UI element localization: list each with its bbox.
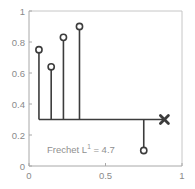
- y-tick-label-0: 0: [20, 161, 25, 172]
- stem-marker-circle-2: [60, 34, 66, 40]
- annotation-prefix: Frechet L: [47, 144, 87, 155]
- y-tick-label-2: 0.4: [12, 99, 25, 110]
- annotation-suffix: = 4.7: [91, 144, 115, 155]
- x-tick-label-0: 0: [26, 170, 31, 181]
- y-tick-label-5: 1: [20, 6, 25, 17]
- stem-marker-circle-0: [36, 47, 42, 53]
- x-tick-label-1: 0.5: [99, 170, 112, 181]
- frechet-annotation: Frechet L1 = 4.7: [47, 143, 115, 155]
- stem-marker-circle-4: [141, 147, 147, 153]
- stem-plot-figure: 0 0.2 0.4 0.6 0.8 1 0 0.5 1 Frechet L1 =…: [0, 0, 195, 189]
- stem-marker-circle-3: [76, 23, 82, 29]
- y-tick-label-3: 0.6: [12, 68, 25, 79]
- x-tick-label-2: 1: [179, 170, 184, 181]
- chart-canvas: 0 0.2 0.4 0.6 0.8 1 0 0.5 1 Frechet L1 =…: [0, 0, 195, 189]
- stem-marker-circle-1: [48, 64, 54, 70]
- y-tick-label-4: 0.8: [12, 37, 25, 48]
- y-tick-label-1: 0.2: [12, 130, 25, 141]
